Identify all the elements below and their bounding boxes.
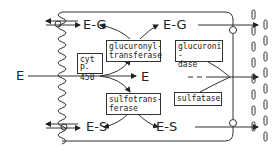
enzyme-sulfotransferase: sulfotrans- ferase <box>106 93 161 115</box>
enzyme-glucuronyltransferase: glucuronyl- transferase <box>106 40 161 62</box>
enzyme-sts-line1: sulfatase <box>177 94 219 103</box>
pathway-lines <box>0 0 280 153</box>
enzyme-cyp450: cyt P-450 <box>77 53 103 74</box>
enzyme-cyp450-line1: cyt <box>80 55 100 64</box>
diagram-canvas: E E-G E-G E E-S E-S cyt P-450 glucuronyl… <box>0 0 280 153</box>
enzyme-sult-line2: ferase <box>109 104 158 113</box>
enzyme-ugt-line1: glucuronyl- <box>109 42 158 51</box>
eg-left-label: E-G <box>83 18 106 31</box>
right-membrane-1 <box>252 10 255 131</box>
enzyme-cyp450-line2: P-450 <box>80 64 100 82</box>
enzyme-gus-line1: glucuroni - <box>178 42 220 60</box>
es-right-label: E-S <box>156 120 177 133</box>
e-center-label: E <box>141 70 149 83</box>
enzyme-sulfatase: sulfatase <box>174 92 222 106</box>
es-left-label: E-S <box>86 120 107 133</box>
enzyme-glucuronidase: glucuroni - dase <box>175 40 223 62</box>
enzyme-ugt-line2: transferase <box>109 51 158 60</box>
e-outside-label: E <box>16 69 24 82</box>
enzyme-sult-line1: sulfotrans- <box>109 95 158 104</box>
right-membrane-2 <box>264 20 267 141</box>
enzyme-gus-line2: dase <box>178 60 220 69</box>
eg-right-label: E-G <box>163 18 186 31</box>
